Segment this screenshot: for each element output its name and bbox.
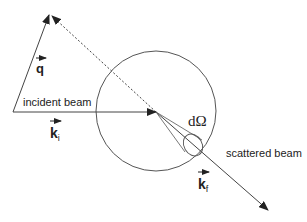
scattered-beam-line bbox=[156, 112, 268, 210]
solid-angle-label: dΩ bbox=[188, 113, 207, 129]
ki-label: ki bbox=[50, 125, 60, 143]
incident-beam-label: incident beam bbox=[23, 96, 92, 108]
scattering-diagram: incident beam scattered beam dΩ q ki kf bbox=[0, 0, 307, 222]
kf-label: kf bbox=[198, 176, 209, 194]
cone-edge-lower bbox=[156, 112, 185, 152]
scattering-sphere bbox=[96, 51, 216, 171]
q-label: q bbox=[36, 61, 44, 76]
scattered-beam-label: scattered beam bbox=[226, 147, 302, 159]
